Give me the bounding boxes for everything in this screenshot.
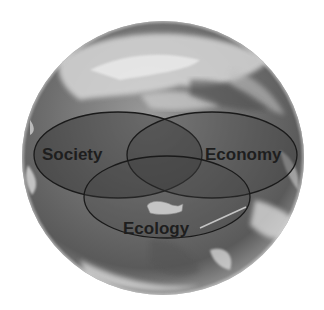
ecology-label: Ecology <box>123 219 190 238</box>
economy-label: Economy <box>205 145 282 164</box>
society-label: Society <box>42 145 103 164</box>
sustainability-venn-diagram: Society Economy Ecology <box>0 0 324 310</box>
